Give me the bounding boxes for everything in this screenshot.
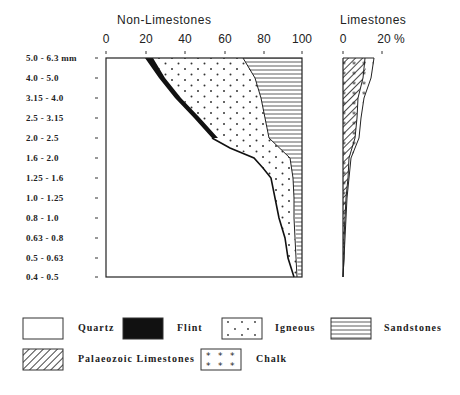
legend-palaeozoic-label: Palaeozoic Limestones: [78, 353, 195, 364]
svg-text:*: *: [230, 351, 235, 361]
svg-text:*: *: [206, 361, 211, 371]
legend-chalk-label: Chalk: [256, 353, 287, 364]
svg-text:*: *: [206, 351, 211, 361]
legend-quartz-swatch: [23, 318, 63, 339]
legend-flint-label: Flint: [177, 322, 203, 333]
legend-quartz-label: Quartz: [78, 322, 115, 333]
legend-sandstones-label: Sandstones: [384, 322, 442, 333]
legend-flint-swatch: [123, 318, 163, 339]
legend-igneous-label: Igneous: [275, 322, 315, 333]
legend-sandstones-swatch: [331, 318, 371, 339]
chart-canvas: *: [0, 0, 460, 395]
legend-palaeozoic-swatch: [23, 349, 63, 370]
main-x-ticks: [106, 51, 382, 54]
svg-text:*: *: [230, 361, 235, 371]
row-ticks: [95, 58, 98, 277]
svg-text:*: *: [218, 361, 223, 371]
legend-chalk-stars: *** ***: [206, 351, 235, 371]
svg-text:*: *: [218, 351, 223, 361]
